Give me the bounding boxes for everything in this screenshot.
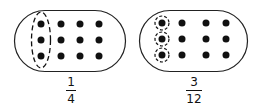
left-fraction-bar bbox=[66, 90, 76, 91]
left-fraction: 1 4 bbox=[56, 76, 86, 105]
left-fraction-denominator: 4 bbox=[56, 93, 86, 105]
right-fraction-numerator: 3 bbox=[179, 76, 209, 88]
right-fraction-denominator: 12 bbox=[179, 93, 209, 105]
right-fraction-bar bbox=[186, 90, 202, 91]
left-fraction-numerator: 1 bbox=[56, 76, 86, 88]
left-pill-outline bbox=[15, 11, 126, 72]
left-diagram bbox=[15, 11, 126, 72]
left-dot-grid bbox=[38, 21, 103, 60]
right-fraction: 3 12 bbox=[179, 76, 209, 105]
right-diagram bbox=[140, 11, 248, 72]
fraction-diagrams bbox=[0, 0, 261, 111]
